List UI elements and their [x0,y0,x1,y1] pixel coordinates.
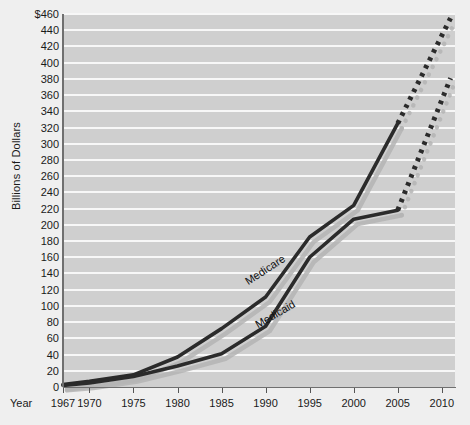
y-tick-label: 160 [3,251,59,263]
y-tick-label: 440 [3,24,59,36]
y-axis-tick-labels: $460440420400380360340320300280260240220… [0,0,59,425]
y-tick-label: 220 [3,203,59,215]
x-tick-label: 1990 [253,397,277,409]
y-tick-label: 0 [3,381,59,393]
y-tick-label: 100 [3,300,59,312]
y-tick-label: 120 [3,284,59,296]
y-tick-label: 340 [3,105,59,117]
series-shadow-3 [402,83,455,215]
x-tick-label: 1980 [165,397,189,409]
x-tick-label: 1967 [51,397,75,409]
series-line-medicaid [63,210,398,385]
x-tick-label: 2005 [385,397,409,409]
x-tick-label: 1985 [209,397,233,409]
x-tick-label: 2000 [341,397,365,409]
y-tick-label: 280 [3,154,59,166]
y-tick-label: 140 [3,267,59,279]
chart-container: Billions of Dollars $4604404204003803603… [0,0,470,425]
y-tick-label: 80 [3,316,59,328]
series-line-medicare [63,123,398,384]
series-shadow-1 [402,23,455,128]
y-tick-label: 240 [3,186,59,198]
x-tick-label: 1975 [121,397,145,409]
y-tick-label: 300 [3,138,59,150]
x-tick-label: 1995 [297,397,321,409]
x-tick-label: 2010 [430,397,454,409]
y-tick-label: 60 [3,332,59,344]
y-tick-label: 200 [3,219,59,231]
x-tick-label: 1970 [77,397,101,409]
series-layer [63,14,455,387]
y-tick-label: $460 [3,8,59,20]
y-tick-label: 40 [3,349,59,361]
y-tick-label: 320 [3,122,59,134]
y-tick-label: 380 [3,73,59,85]
series-line-medicaid-projected [398,78,451,210]
y-axis-line [62,14,64,387]
x-axis-title: Year [10,397,32,409]
x-axis-line [63,387,456,388]
y-tick-label: 20 [3,365,59,377]
plot-area: Medicare Medicaid [63,14,455,387]
y-tick-label: 400 [3,57,59,69]
series-shadow-2 [67,215,402,390]
series-shadow-0 [67,128,402,389]
y-tick-label: 180 [3,235,59,247]
y-tick-label: 360 [3,89,59,101]
series-line-medicare-projected [398,18,451,123]
y-tick-label: 420 [3,40,59,52]
y-tick-label: 260 [3,170,59,182]
